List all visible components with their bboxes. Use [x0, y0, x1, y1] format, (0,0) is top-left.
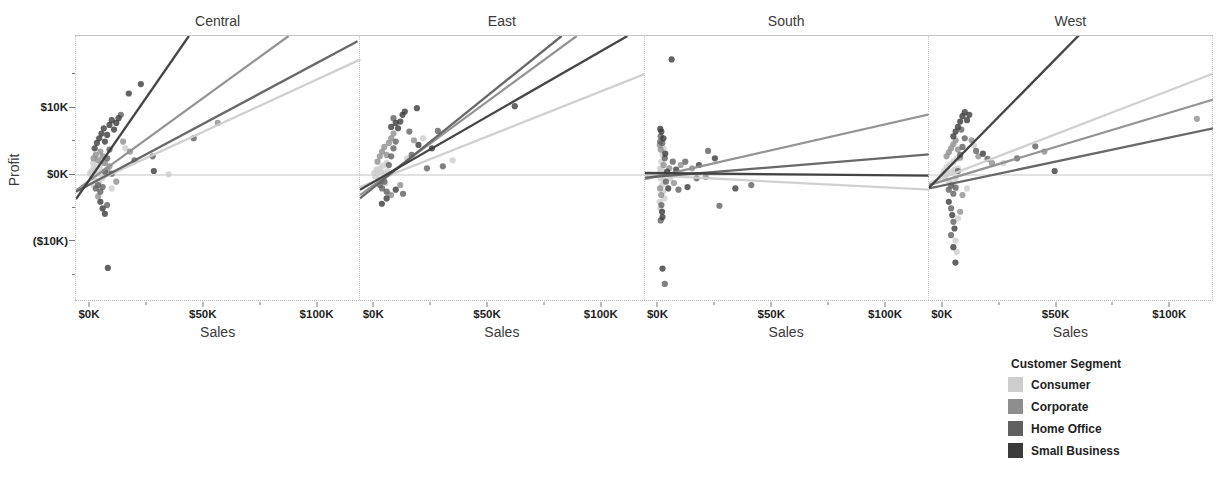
mark-small-business[interactable]	[402, 108, 408, 114]
mark-corporate[interactable]	[375, 159, 381, 165]
mark-small-business[interactable]	[101, 125, 107, 131]
mark-small-business[interactable]	[964, 117, 970, 123]
mark-corporate[interactable]	[959, 192, 965, 198]
mark-corporate[interactable]	[656, 185, 662, 191]
mark-home-office[interactable]	[440, 163, 446, 169]
mark-home-office[interactable]	[959, 144, 965, 150]
mark-corporate[interactable]	[411, 137, 417, 143]
legend-item-corporate[interactable]: Corporate	[1008, 399, 1121, 414]
mark-small-business[interactable]	[662, 151, 668, 157]
mark-home-office[interactable]	[391, 145, 397, 151]
mark-small-business[interactable]	[102, 211, 108, 217]
mark-home-office[interactable]	[388, 153, 394, 159]
mark-corporate[interactable]	[670, 180, 676, 186]
mark-small-business[interactable]	[384, 195, 390, 201]
mark-corporate[interactable]	[397, 182, 403, 188]
mark-home-office[interactable]	[407, 128, 413, 134]
mark-home-office[interactable]	[952, 185, 958, 191]
mark-home-office[interactable]	[100, 184, 106, 190]
mark-small-business[interactable]	[952, 259, 958, 265]
mark-small-business[interactable]	[416, 142, 422, 148]
mark-small-business[interactable]	[949, 212, 955, 218]
mark-small-business[interactable]	[660, 135, 666, 141]
mark-small-business[interactable]	[100, 205, 106, 211]
trend-line-consumer[interactable]	[929, 73, 1214, 183]
mark-home-office[interactable]	[748, 182, 754, 188]
mark-small-business[interactable]	[659, 214, 665, 220]
mark-corporate[interactable]	[660, 162, 666, 168]
mark-small-business[interactable]	[97, 199, 103, 205]
facet-plot-east[interactable]	[360, 36, 645, 302]
mark-home-office[interactable]	[662, 179, 668, 185]
mark-small-business[interactable]	[980, 151, 986, 157]
facet-plot-central[interactable]	[76, 36, 361, 302]
mark-small-business[interactable]	[684, 184, 690, 190]
legend-item-small-business[interactable]: Small Business	[1008, 443, 1121, 458]
mark-small-business[interactable]	[955, 124, 961, 130]
mark-small-business[interactable]	[115, 115, 121, 121]
mark-home-office[interactable]	[675, 187, 681, 193]
mark-consumer[interactable]	[964, 185, 970, 191]
mark-corporate[interactable]	[113, 179, 119, 185]
mark-home-office[interactable]	[384, 189, 390, 195]
mark-small-business[interactable]	[138, 81, 144, 87]
mark-corporate[interactable]	[120, 138, 126, 144]
mark-corporate[interactable]	[1194, 116, 1200, 122]
trend-line-corporate[interactable]	[645, 114, 930, 179]
mark-home-office[interactable]	[669, 159, 675, 165]
mark-home-office[interactable]	[424, 165, 430, 171]
mark-consumer[interactable]	[952, 237, 958, 243]
mark-consumer[interactable]	[420, 135, 426, 141]
mark-small-business[interactable]	[950, 244, 956, 250]
mark-home-office[interactable]	[661, 281, 667, 287]
mark-small-business[interactable]	[658, 209, 664, 215]
mark-small-business[interactable]	[92, 145, 98, 151]
mark-small-business[interactable]	[668, 56, 674, 62]
mark-home-office[interactable]	[961, 135, 967, 141]
mark-small-business[interactable]	[1051, 168, 1057, 174]
legend-item-consumer[interactable]: Consumer	[1008, 377, 1121, 392]
mark-consumer[interactable]	[166, 171, 172, 177]
mark-small-business[interactable]	[659, 265, 665, 271]
mark-small-business[interactable]	[151, 168, 157, 174]
mark-small-business[interactable]	[393, 187, 399, 193]
mark-home-office[interactable]	[682, 159, 688, 165]
mark-small-business[interactable]	[126, 90, 132, 96]
mark-small-business[interactable]	[951, 225, 957, 231]
mark-small-business[interactable]	[388, 124, 394, 130]
mark-small-business[interactable]	[102, 138, 108, 144]
mark-small-business[interactable]	[945, 199, 951, 205]
mark-small-business[interactable]	[414, 105, 420, 111]
mark-home-office[interactable]	[948, 205, 954, 211]
legend-item-home-office[interactable]: Home Office	[1008, 421, 1121, 436]
mark-small-business[interactable]	[657, 126, 663, 132]
mark-home-office[interactable]	[386, 162, 392, 168]
mark-home-office[interactable]	[973, 148, 979, 154]
mark-consumer[interactable]	[450, 157, 456, 163]
facet-plot-south[interactable]	[645, 36, 930, 302]
mark-small-business[interactable]	[732, 185, 738, 191]
trend-line-home-office[interactable]	[360, 36, 562, 198]
mark-home-office[interactable]	[704, 148, 710, 154]
mark-corporate[interactable]	[391, 130, 397, 136]
mark-small-business[interactable]	[98, 130, 104, 136]
mark-small-business[interactable]	[104, 132, 110, 138]
mark-small-business[interactable]	[379, 201, 385, 207]
mark-home-office[interactable]	[658, 202, 664, 208]
mark-corporate[interactable]	[658, 192, 664, 198]
mark-home-office[interactable]	[393, 138, 399, 144]
mark-home-office[interactable]	[716, 203, 722, 209]
mark-small-business[interactable]	[665, 185, 671, 191]
trend-line-consumer[interactable]	[76, 59, 361, 190]
trend-line-small-business[interactable]	[360, 36, 627, 190]
mark-consumer[interactable]	[109, 185, 115, 191]
mark-small-business[interactable]	[105, 265, 111, 271]
trend-line-corporate[interactable]	[76, 36, 289, 190]
mark-home-office[interactable]	[948, 232, 954, 238]
mark-small-business[interactable]	[957, 118, 963, 124]
mark-small-business[interactable]	[395, 125, 401, 131]
mark-home-office[interactable]	[950, 191, 956, 197]
mark-small-business[interactable]	[966, 112, 972, 118]
mark-small-business[interactable]	[111, 126, 117, 132]
mark-home-office[interactable]	[400, 191, 406, 197]
